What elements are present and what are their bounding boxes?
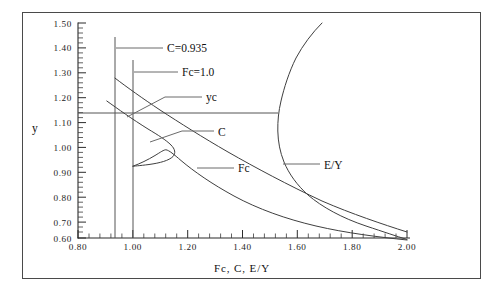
y-tick-labels: 1.50 1.40 1.30 1.20 1.10 1.00 0.90 0.80 … <box>54 19 72 244</box>
annotation-fc-curve: Fc <box>238 162 250 174</box>
annotation-ey-curve: E/Y <box>324 159 343 171</box>
annotation-yc: yc <box>206 91 217 104</box>
curve-c <box>107 101 407 240</box>
annotation-c-value: C=0.935 <box>167 42 207 54</box>
y-minor-ticks <box>78 28 83 232</box>
leader-yc <box>127 97 202 117</box>
figure-root: 1.50 1.40 1.30 1.20 1.10 1.00 0.90 0.80 … <box>0 0 500 295</box>
x-tick-labels: 0.80 1.00 1.20 1.40 1.60 1.80 2.00 <box>69 242 416 252</box>
x-tick-label: 1.80 <box>343 242 361 252</box>
y-tick-label: 0.90 <box>54 168 72 178</box>
x-tick-label: 1.00 <box>124 242 142 252</box>
x-axis-title: Fc, C, E/Y <box>214 262 270 274</box>
y-tick-label: 0.70 <box>54 218 72 228</box>
annotation-c-curve: C <box>218 126 226 138</box>
x-tick-label: 2.00 <box>398 242 416 252</box>
chart-svg: 1.50 1.40 1.30 1.20 1.10 1.00 0.90 0.80 … <box>0 0 500 295</box>
y-tick-label: 1.10 <box>54 118 72 128</box>
y-tick-label: 0.80 <box>54 193 72 203</box>
curve-ey <box>278 23 407 240</box>
y-tick-label: 1.30 <box>54 68 72 78</box>
y-major-ticks <box>78 23 86 238</box>
x-tick-label: 1.60 <box>288 242 306 252</box>
annotation-fc-value: Fc=1.0 <box>182 66 215 78</box>
y-tick-label: 1.00 <box>54 143 72 153</box>
y-tick-label: 1.40 <box>54 43 72 53</box>
y-tick-label: 1.20 <box>54 93 72 103</box>
y-tick-label: 1.50 <box>54 19 72 29</box>
x-tick-label: 1.40 <box>233 242 251 252</box>
y-axis-title: y <box>32 122 38 135</box>
x-tick-label: 0.80 <box>69 242 87 252</box>
x-tick-label: 1.20 <box>178 242 196 252</box>
